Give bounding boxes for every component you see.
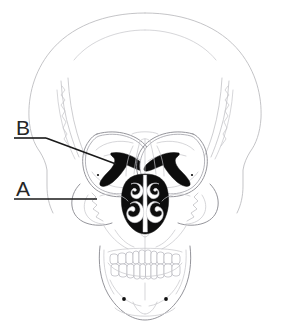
tooth-upper: [157, 252, 164, 264]
tooth-upper: [118, 253, 126, 264]
upper-teeth-row: [110, 250, 180, 264]
infraorbital-foramen-right: [164, 206, 167, 209]
mental-foramen-left: [122, 297, 126, 301]
tooth-upper: [110, 254, 118, 264]
tooth-lower: [157, 264, 164, 278]
canine-fossa-left: [115, 230, 134, 247]
maxilla-alveolar-right: [162, 226, 186, 249]
labels-group: B A: [16, 116, 30, 200]
glabella: [132, 132, 158, 134]
infraorbital-foramen-left: [122, 206, 125, 209]
frontal-eminence-right: [145, 30, 216, 60]
vomer-septum: [143, 175, 147, 232]
temporal-ridge-right: [204, 78, 222, 157]
tooth-lower: [151, 264, 157, 279]
temporal-ridge-left: [68, 78, 86, 157]
zygomaticomaxillary-suture-right: [187, 193, 198, 221]
mandible-body-right: [149, 280, 180, 306]
tooth-upper: [172, 254, 180, 264]
skull-diagram-figure: Anterior view of the human skull: [0, 0, 291, 328]
mental-protuberance-left: [133, 302, 145, 314]
tooth-upper: [164, 253, 172, 264]
frontal-eminence-left: [74, 30, 145, 60]
canine-fossa-right: [156, 230, 175, 247]
maxilla-alveolar-left: [104, 226, 128, 249]
right-orbit-foramen: [191, 174, 193, 176]
label-a: A: [16, 177, 30, 200]
tooth-upper: [126, 252, 133, 264]
tooth-lower: [172, 264, 180, 276]
skull-illustration: Anterior view of the human skull: [0, 0, 291, 328]
mental-foramen-right: [164, 297, 168, 301]
zygomaticomaxillary-suture-left: [92, 193, 103, 221]
left-orbit-foramen: [97, 174, 99, 176]
tooth-lower: [119, 264, 127, 277]
temporal-fossa-left: [57, 90, 75, 159]
temporal-fossa-right: [215, 90, 233, 159]
mandible-body-left: [110, 280, 141, 306]
tooth-lower: [134, 264, 140, 279]
label-b: B: [16, 116, 30, 139]
tooth-lower: [164, 264, 172, 277]
tooth-upper: [133, 251, 139, 264]
tooth-lower: [111, 264, 119, 276]
tooth-upper: [151, 251, 157, 264]
teeth-group: [108, 248, 182, 279]
mental-protuberance-right: [145, 302, 157, 314]
tooth-upper: [145, 250, 151, 264]
tooth-upper: [139, 250, 145, 264]
